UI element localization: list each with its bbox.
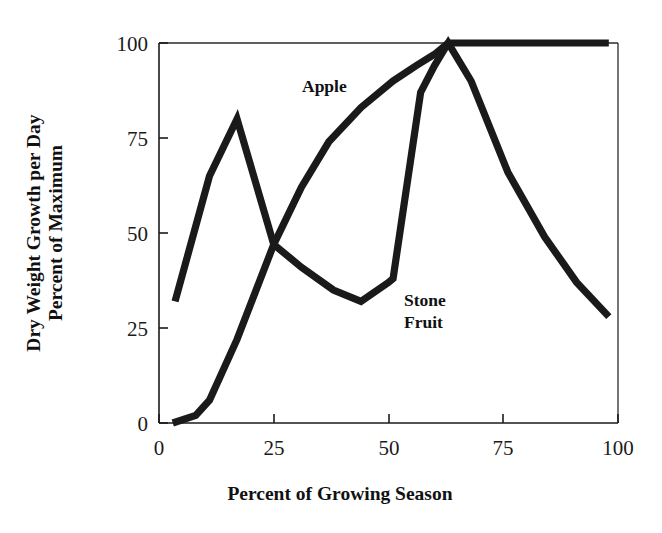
- x-tick-label-75: 75: [493, 436, 514, 460]
- x-tick-label-25: 25: [264, 436, 285, 460]
- data-series-group: [173, 43, 609, 423]
- chart-page: 0 25 50 75 100 0 25 50 75 100 Apple: [0, 0, 662, 533]
- y-tick-label-50: 50: [127, 222, 148, 246]
- y-tick-labels: 0 25 50 75 100: [117, 32, 149, 436]
- y-axis-title-line1: Dry Weight Growth per Day: [23, 114, 44, 351]
- series-label-stone-fruit-line2: Fruit: [404, 312, 443, 332]
- x-axis-title: Percent of Growing Season: [227, 483, 452, 504]
- y-tick-label-0: 0: [138, 412, 149, 436]
- series-label-stone-fruit-line1: Stone: [404, 290, 446, 310]
- y-tick-marks: [159, 43, 168, 423]
- x-tick-label-100: 100: [602, 436, 634, 460]
- y-axis-title-group: Dry Weight Growth per Day Percent of Max…: [23, 114, 66, 351]
- x-tick-label-50: 50: [379, 436, 400, 460]
- x-tick-label-0: 0: [154, 436, 165, 460]
- chart-canvas: 0 25 50 75 100 0 25 50 75 100 Apple: [0, 0, 662, 533]
- x-tick-marks: [159, 414, 618, 423]
- series-label-apple: Apple: [302, 76, 347, 96]
- y-axis-title-line2: Percent of Maximum: [45, 145, 66, 321]
- y-tick-label-75: 75: [127, 127, 148, 151]
- x-tick-labels: 0 25 50 75 100: [154, 436, 634, 460]
- y-tick-label-25: 25: [127, 317, 148, 341]
- y-tick-label-100: 100: [117, 32, 149, 56]
